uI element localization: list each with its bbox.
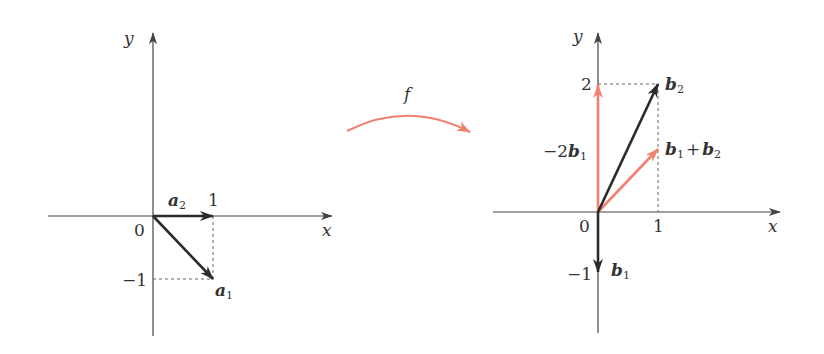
left-tick-y-neg1: −1 <box>122 270 147 290</box>
right-plot: y x 0 1 2 −1 b2 b1 −2b1 b1+b2 <box>493 26 780 333</box>
right-tick-y-2: 2 <box>581 74 592 94</box>
right-x-axis-label: x <box>768 216 778 236</box>
vector-b2-arrow <box>598 84 658 212</box>
left-plot: y x 0 1 −1 a2 a1 <box>48 28 332 336</box>
map-label-f: f <box>402 84 413 104</box>
left-origin-label: 0 <box>134 220 145 240</box>
vector-b2-label: b2 <box>665 74 684 96</box>
curved-arrow-icon <box>347 116 470 132</box>
linear-map-diagram: y x 0 1 −1 a2 a1 f y x 0 1 2 −1 b2 <box>0 0 824 354</box>
map-arrow-f: f <box>347 84 470 132</box>
left-x-axis-label: x <box>322 220 332 240</box>
right-y-axis-label: y <box>572 26 583 46</box>
left-y-axis-label: y <box>123 28 134 48</box>
right-origin-label: 0 <box>579 216 590 236</box>
vector-b1-label: b1 <box>611 260 630 282</box>
right-tick-y-neg1: −1 <box>567 264 592 284</box>
vector-a2-label: a2 <box>168 190 186 212</box>
vector-b1-plus-b2-arrow <box>598 149 658 212</box>
left-tick-x-1: 1 <box>208 190 219 210</box>
vector-b1-plus-b2-label: b1+b2 <box>665 139 721 161</box>
vector-a1-arrow <box>153 216 213 279</box>
vector-neg2b1-label: −2b1 <box>543 141 587 163</box>
right-tick-x-1: 1 <box>653 216 664 236</box>
vector-a1-label: a1 <box>215 280 233 302</box>
